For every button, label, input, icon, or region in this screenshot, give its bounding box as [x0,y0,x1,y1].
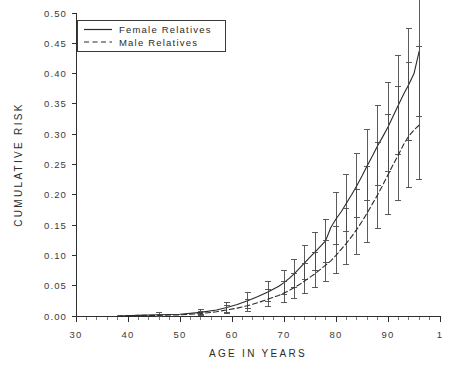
legend-label-female: Female Relatives [119,24,212,35]
y-tick-label: 0.25 [44,159,67,170]
y-axis-tick-labels: 0.000.050.100.150.200.250.300.350.400.45… [44,8,67,322]
x-tick-label: 60 [226,329,239,340]
y-tick-label: 0.15 [44,220,67,231]
x-axis-minor-ticks [86,316,429,320]
y-tick-label: 0.05 [44,280,67,291]
y-tick-label: 0.50 [44,8,67,19]
y-tick-label: 0.10 [44,250,67,261]
legend-label-male: Male Relatives [119,37,198,48]
y-axis-title-text: CUMULATIVE RISK [13,102,24,226]
x-axis-title: AGE IN YEARS [209,348,307,359]
y-axis-title: CUMULATIVE RISK [13,102,24,226]
cumulative-risk-chart: 0.000.050.100.150.200.250.300.350.400.45… [0,0,454,371]
x-tick-label: 90 [382,329,395,340]
y-axis-ticks [72,13,76,316]
x-tick-label: 30 [70,329,83,340]
y-tick-label: 0.35 [44,98,67,109]
y-tick-label: 0.30 [44,129,67,140]
chart-legend: Female Relatives Male Relatives [77,20,225,51]
x-tick-label: 80 [330,329,343,340]
x-axis-tick-labels: 304050607080901 [70,329,444,340]
y-tick-label: 0.40 [44,68,67,79]
y-tick-label: 0.45 [44,38,67,49]
series-male [118,46,423,316]
x-axis-ticks [76,316,440,322]
y-tick-label: 0.00 [44,311,67,322]
chart-canvas: 0.000.050.100.150.200.250.300.350.400.45… [0,0,454,371]
x-tick-label: 70 [278,329,291,340]
x-tick-label: 40 [122,329,135,340]
y-tick-label: 0.20 [44,189,67,200]
x-tick-label: 50 [174,329,187,340]
series-line [118,51,420,316]
error-bars [156,46,422,316]
x-tick-label: 1 [437,329,443,340]
